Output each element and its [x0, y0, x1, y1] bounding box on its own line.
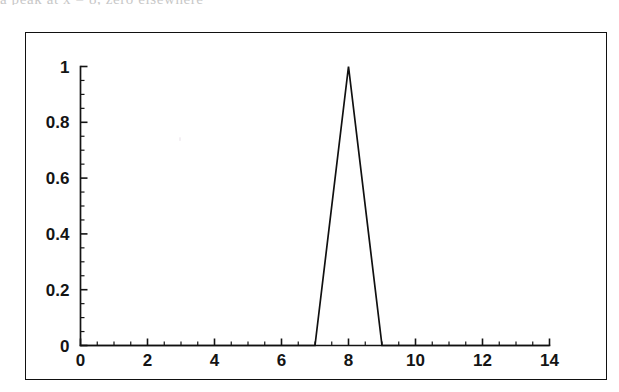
- figure-frame: [25, 32, 607, 380]
- scan-speck: [179, 137, 181, 141]
- scan-clipped-header-text: a peak at x = 8, zero elsewhere: [0, 0, 619, 5]
